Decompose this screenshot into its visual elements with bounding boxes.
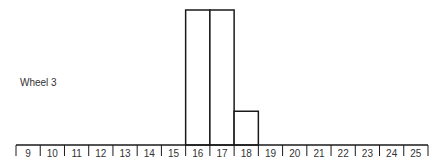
histogram-chart: 910111213141516171819202122232425 <box>0 0 435 161</box>
tick-label: 25 <box>410 148 422 159</box>
tick-label: 19 <box>265 148 277 159</box>
tick-label: 16 <box>192 148 204 159</box>
tick-label: 14 <box>144 148 156 159</box>
bar-18 <box>234 111 258 145</box>
tick-label: 17 <box>216 148 228 159</box>
tick-label: 12 <box>95 148 107 159</box>
bar-17 <box>210 10 234 145</box>
tick-label: 13 <box>119 148 131 159</box>
tick-label: 15 <box>168 148 180 159</box>
tick-label: 9 <box>25 148 31 159</box>
bar-16 <box>186 10 210 145</box>
tick-label: 11 <box>71 148 82 159</box>
tick-label: 21 <box>313 148 325 159</box>
tick-label: 23 <box>362 148 374 159</box>
tick-label: 18 <box>241 148 253 159</box>
tick-label: 20 <box>289 148 301 159</box>
tick-label: 22 <box>338 148 350 159</box>
tick-label: 24 <box>386 148 398 159</box>
tick-label: 10 <box>47 148 59 159</box>
